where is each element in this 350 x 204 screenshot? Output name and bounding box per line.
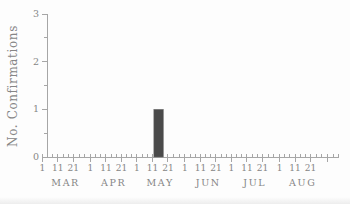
chart-figure: No. Confirmations 0123111211112111121111… [0, 0, 350, 204]
y-tick-label: 2 [33, 56, 39, 67]
x-day-label: 21 [162, 163, 173, 173]
x-day-label: 21 [305, 163, 316, 173]
y-axis-title: No. Confirmations [6, 25, 20, 147]
month-label: MAR [51, 177, 80, 188]
x-day-label: 11 [147, 163, 158, 173]
x-day-label: 21 [116, 163, 127, 173]
y-tick-label: 0 [33, 151, 39, 162]
x-day-label: 11 [289, 163, 300, 173]
x-day-label: 1 [182, 163, 188, 173]
x-day-label: 1 [39, 163, 45, 173]
x-day-label: 21 [257, 163, 268, 173]
x-day-label: 1 [88, 163, 94, 173]
x-day-label: 11 [52, 163, 63, 173]
month-label: JUL [242, 177, 266, 188]
y-tick-label: 3 [33, 8, 39, 19]
month-label: APR [100, 177, 126, 188]
x-day-label: 21 [210, 163, 221, 173]
confirmations-bar-chart: No. Confirmations 0123111211112111121111… [0, 0, 350, 204]
x-day-label: 11 [195, 163, 206, 173]
x-day-label: 11 [100, 163, 111, 173]
month-label: AUG [288, 177, 316, 188]
month-label: JUN [195, 177, 221, 188]
x-day-label: 21 [68, 163, 79, 173]
month-label: MAY [147, 177, 174, 188]
x-day-label: 1 [277, 163, 283, 173]
x-day-label: 1 [229, 163, 235, 173]
y-tick-label: 1 [33, 103, 39, 114]
x-day-label: 1 [134, 163, 140, 173]
x-day-label: 11 [241, 163, 252, 173]
confirmation-bar [154, 109, 164, 157]
